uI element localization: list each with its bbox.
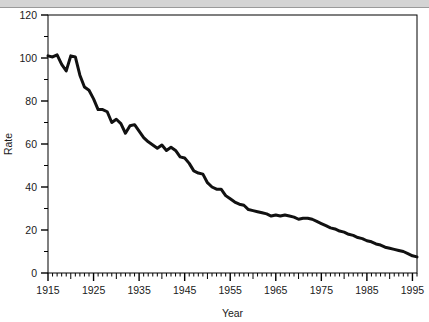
x-tick-label: 1955	[219, 284, 243, 296]
x-tick-label: 1925	[82, 284, 106, 296]
y-axis-title: Rate	[2, 133, 14, 155]
y-tick-label: 100	[19, 52, 37, 64]
x-axis-title: Year	[222, 307, 244, 319]
x-tick-label: 1915	[36, 284, 60, 296]
chart-container: 020406080100120 191519251935194519551965…	[0, 9, 429, 322]
x-tick-label: 1965	[264, 284, 288, 296]
x-tick-label: 1985	[355, 284, 379, 296]
window-top-strip	[0, 0, 429, 8]
line-chart: 020406080100120 191519251935194519551965…	[0, 9, 429, 322]
y-tick-label: 60	[25, 138, 37, 150]
x-tick-label: 1995	[401, 284, 425, 296]
x-tick-label: 1935	[127, 284, 151, 296]
x-tick-label: 1945	[173, 284, 197, 296]
y-tick-label: 20	[25, 224, 37, 236]
y-tick-label: 80	[25, 95, 37, 107]
y-tick-label: 0	[31, 267, 37, 279]
y-tick-label: 120	[19, 9, 37, 21]
chart-background	[0, 9, 429, 322]
y-tick-label: 40	[25, 181, 37, 193]
x-axis-tick-labels: 191519251935194519551965197519851995	[36, 284, 424, 296]
x-tick-label: 1975	[310, 284, 334, 296]
